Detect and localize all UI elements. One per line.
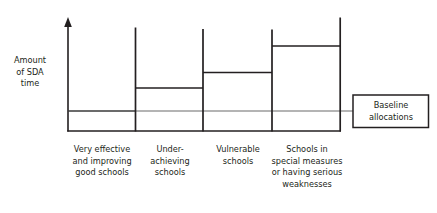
sda-time-step-chart: Amount of SDA time Very effective and im… [0, 0, 437, 213]
category-label-vulnerable: Vulnerable schools [200, 144, 276, 167]
category-label-underachieving: Under- achieving schools [134, 144, 206, 179]
y-axis-label: Amount of SDA time [2, 55, 58, 90]
category-label-very-effective: Very effective and improving good school… [61, 144, 143, 179]
category-label-special-measures: Schools in special measures or having se… [266, 144, 348, 190]
baseline-legend-label: Baseline allocations [353, 100, 429, 123]
